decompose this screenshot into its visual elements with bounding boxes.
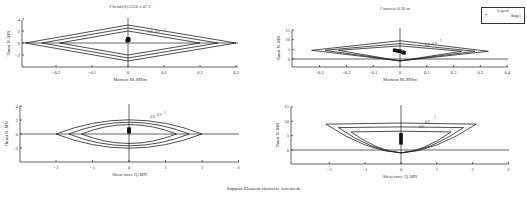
x-axis-label: Shear force Q–MN <box>383 174 418 179</box>
x-tick-label: 0.1 <box>161 70 167 75</box>
curve-label: 0.9 <box>157 113 162 117</box>
y-axis-label: Thrust N–MN <box>6 30 11 56</box>
figure-caption: Support Element shotcrete wiremesh <box>0 186 527 191</box>
y-tick-label: 4 <box>16 104 19 109</box>
curve-label: 0.9 <box>432 42 437 46</box>
x-tick-label: −0.2 <box>342 70 350 75</box>
y-tick-label: 0 <box>288 57 291 62</box>
x-tick-label: 2 <box>201 165 203 170</box>
chart-title-concrete: Concrete:0.36 m <box>345 6 445 11</box>
curve-label: 0.9 <box>425 120 430 124</box>
x-tick-label: 0 <box>400 167 403 172</box>
chart-title-ibeam: I-beam(S):5310 x 47.3 <box>80 4 180 9</box>
y-tick-label: 10 <box>286 37 291 42</box>
x-tick-label: −0.2 <box>52 70 60 75</box>
y-axis-label: Thrust N–MN <box>4 120 9 146</box>
y-tick-label: 15 <box>285 104 290 109</box>
curve-label: 0.9 <box>155 30 160 34</box>
y-tick-label: 15 <box>286 28 291 33</box>
y-tick-label: 0 <box>18 41 21 46</box>
y-tick-label: −2 <box>13 146 18 151</box>
x-tick-label: −1 <box>363 167 368 172</box>
y-tick-label: 5 <box>287 133 290 138</box>
x-tick-label: 0.2 <box>451 70 457 75</box>
y-axis-label: Thrust N–MN <box>275 122 280 148</box>
x-tick-label: 1 <box>436 167 438 172</box>
x-axis-label: Moment M–MNm <box>383 77 417 82</box>
x-tick-label: 2 <box>471 167 473 172</box>
curve-label: 1 <box>440 39 442 43</box>
x-tick-label: 0 <box>399 70 402 75</box>
x-tick-label: −2 <box>327 167 332 172</box>
x-tick-label: 0 <box>127 70 130 75</box>
chart-tr: −0.3−0.2−0.100.10.20.30.4151050Moment M–… <box>276 28 511 82</box>
x-tick-label: 0.1 <box>424 70 430 75</box>
x-tick-label: 0.3 <box>233 70 239 75</box>
chart-br: −2−10123151050Shear force Q–MNThrust N–M… <box>275 104 510 179</box>
curve-label: 0.8 <box>419 125 424 129</box>
y-tick-label: 2 <box>18 29 20 34</box>
stage1-point <box>399 133 403 137</box>
figure-canvas: −0.2−0.100.10.20.3420−2Moment M–MNmThrus… <box>0 0 527 198</box>
chart-tl: −0.2−0.100.10.20.3420−2Moment M–MNmThrus… <box>6 17 240 83</box>
x-tick-label: −1 <box>90 165 95 170</box>
y-tick-label: 2 <box>16 118 18 123</box>
legend-label: Stage1 <box>511 14 521 18</box>
curve-label: 1 <box>164 28 166 32</box>
curve-label: 0.8 <box>150 115 155 119</box>
curve-label: 0.8 <box>425 43 430 47</box>
y-tick-label: 0 <box>16 132 19 137</box>
curve-label: 1 <box>434 115 436 119</box>
stage1-point <box>127 38 131 42</box>
x-tick-label: 3 <box>507 167 510 172</box>
x-tick-label: 3 <box>237 165 240 170</box>
y-tick-label: 0 <box>287 148 290 153</box>
x-axis-label: Shear force Q–MN <box>112 172 147 177</box>
y-tick-label: 5 <box>288 47 291 52</box>
legend: Legend * Stage1 <box>481 7 525 24</box>
stage1-point <box>402 51 406 55</box>
legend-entry-stage1: * Stage1 <box>482 14 524 18</box>
chart-bl: −2−10123420−2Shear force Q–MNThrust N–MN… <box>4 104 240 178</box>
x-tick-label: −0.3 <box>316 70 325 75</box>
curve-label: 1 <box>164 111 166 115</box>
star-marker-icon: * <box>485 14 488 18</box>
y-tick-label: 4 <box>18 17 21 22</box>
legend-title: Legend <box>482 9 524 13</box>
x-tick-label: −0.1 <box>88 70 96 75</box>
y-axis-label: Thrust N–MN <box>276 35 281 61</box>
x-tick-label: −2 <box>54 165 59 170</box>
x-tick-label: 0.4 <box>504 70 510 75</box>
stage1-point <box>127 127 131 131</box>
y-tick-label: −2 <box>15 53 20 58</box>
x-tick-label: 1 <box>164 165 166 170</box>
x-tick-label: 0 <box>128 165 131 170</box>
x-tick-label: −0.1 <box>369 70 377 75</box>
x-tick-label: 0.2 <box>197 70 203 75</box>
y-tick-label: 10 <box>285 119 290 124</box>
x-axis-label: Moment M–MNm <box>113 77 147 82</box>
x-tick-label: 0.3 <box>478 70 484 75</box>
curve-label: 0.8 <box>148 30 153 34</box>
